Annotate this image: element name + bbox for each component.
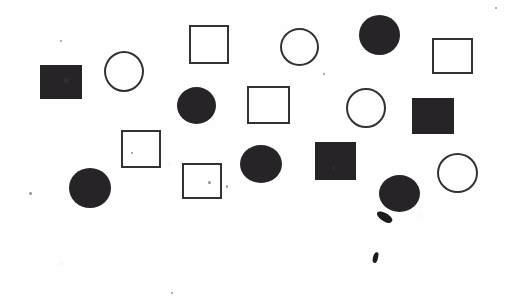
speck-2 — [60, 40, 62, 42]
open-circle-2 — [280, 28, 319, 66]
filled-circle-1 — [359, 15, 400, 55]
speck-9 — [171, 292, 173, 294]
open-square-2 — [432, 38, 473, 74]
speck-5 — [208, 181, 211, 184]
filled-circle-2 — [177, 87, 216, 124]
speck-10 — [226, 185, 228, 188]
streak-1 — [375, 209, 394, 225]
open-circle-4 — [437, 153, 478, 193]
open-square-4 — [121, 130, 161, 168]
filled-square-2 — [412, 98, 454, 134]
open-square-3 — [247, 86, 290, 124]
speck-3 — [495, 7, 497, 9]
open-circle-3 — [346, 88, 386, 128]
filled-square-1 — [40, 65, 82, 99]
speck-7 — [64, 78, 69, 83]
tick-1 — [372, 252, 379, 264]
shape-canvas — [0, 0, 511, 299]
open-circle-1 — [104, 51, 144, 92]
filled-square-3 — [315, 142, 356, 180]
speck-6 — [332, 166, 335, 170]
speck-4 — [131, 152, 133, 154]
filled-circle-3 — [240, 145, 282, 183]
filled-circle-4 — [69, 168, 111, 208]
open-square-5 — [182, 163, 222, 199]
speck-1 — [29, 192, 32, 195]
open-square-1 — [189, 25, 229, 64]
speck-8 — [323, 73, 325, 75]
filled-circle-5 — [379, 175, 420, 212]
